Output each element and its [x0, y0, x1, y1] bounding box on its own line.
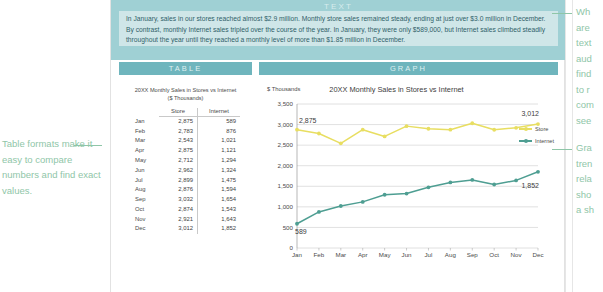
cell-store: 2,543 — [159, 136, 198, 146]
cell-internet: 1,294 — [198, 156, 241, 166]
x-tick-label: Jun — [402, 251, 413, 258]
y-tick-label: 3,500 — [278, 100, 294, 107]
table-row: Nov2,9211,643 — [131, 214, 240, 224]
data-point-store — [514, 126, 518, 130]
cell-month: Jul — [131, 175, 159, 185]
guide-line-2 — [572, 0, 573, 292]
table-row: Apr2,8751,121 — [131, 146, 240, 156]
y-tick-label: 2,000 — [278, 162, 294, 169]
text-paragraph: In January, sales in our stores reached … — [126, 14, 551, 46]
cell-internet: 1,643 — [198, 214, 241, 224]
series-line-store — [297, 123, 538, 143]
data-point-store — [383, 135, 387, 139]
cell-internet: 1,852 — [198, 224, 241, 234]
col-header-store: Store — [159, 108, 198, 116]
cell-month: Jan — [131, 116, 159, 126]
x-tick-label: Oct — [489, 251, 499, 258]
legend-item-internet: Internet — [519, 138, 554, 144]
y-tick-label: 500 — [283, 224, 294, 231]
table-body: Jan2,875589Feb2,783876Mar2,5431,021Apr2,… — [131, 116, 240, 234]
cell-internet: 1,324 — [198, 165, 241, 175]
cell-month: Dec — [131, 224, 159, 234]
cell-month: Jun — [131, 165, 159, 175]
data-point-store — [361, 128, 365, 132]
cell-internet: 1,475 — [198, 175, 241, 185]
x-tick-label: Jan — [292, 251, 303, 258]
data-point-store — [339, 141, 343, 145]
x-tick-label: May — [379, 251, 392, 258]
x-tick-label: Nov — [511, 251, 523, 258]
data-point-internet — [317, 210, 321, 214]
text-section-label: TEXT — [111, 2, 566, 11]
data-point-store — [295, 128, 299, 132]
cell-store: 2,921 — [159, 214, 198, 224]
cell-month: Oct — [131, 205, 159, 215]
cell-internet: 1,543 — [198, 205, 241, 215]
legend-swatch-store — [519, 128, 532, 130]
leader-line-top-right — [552, 13, 572, 14]
cell-store: 2,875 — [159, 116, 198, 126]
y-tick-label: 2,500 — [278, 141, 294, 148]
x-tick-label: Dec — [532, 251, 543, 258]
legend-swatch-internet — [519, 140, 532, 142]
table-title: 20XX Monthly Sales in Stores vs Internet… — [119, 86, 252, 102]
callout-internet-first: 589 — [295, 228, 307, 235]
x-tick-label: Jul — [424, 251, 432, 258]
text-section: TEXT In January, sales in our stores rea… — [111, 0, 566, 60]
data-point-internet — [448, 181, 452, 185]
cell-internet: 1,121 — [198, 146, 241, 156]
cell-store: 3,012 — [159, 224, 198, 234]
chart-plot-area: 05001,0001,5002,0002,5003,0003,500JanFeb… — [267, 98, 550, 268]
data-point-internet — [492, 183, 496, 187]
cell-month: Nov — [131, 214, 159, 224]
line-chart-svg: 05001,0001,5002,0002,5003,0003,500JanFeb… — [267, 98, 550, 268]
table-row: Jun2,9621,324 — [131, 165, 240, 175]
table-section-label: TABLE — [119, 62, 252, 75]
x-tick-label: Aug — [445, 251, 457, 258]
data-point-store — [427, 127, 431, 131]
col-header-internet: Internet — [198, 108, 241, 116]
x-tick-label: Mar — [335, 251, 346, 258]
data-point-store — [470, 121, 474, 125]
leader-line-left — [74, 145, 102, 146]
data-point-internet — [405, 192, 409, 196]
graph-section-label: GRAPH — [259, 62, 558, 75]
legend-item-store: Store — [519, 126, 554, 132]
y-tick-label: 1,500 — [278, 182, 294, 189]
cell-internet: 1,021 — [198, 136, 241, 146]
table-row: Oct2,8741,543 — [131, 205, 240, 215]
table-row: May2,7121,294 — [131, 156, 240, 166]
chart-title: 20XX Monthly Sales in Stores vs Internet — [289, 85, 504, 94]
data-point-internet — [427, 185, 431, 189]
chart-legend: Store Internet — [519, 126, 554, 150]
legend-label-store: Store — [535, 126, 548, 132]
data-point-store — [405, 124, 409, 128]
cell-store: 2,875 — [159, 146, 198, 156]
cell-month: Feb — [131, 126, 159, 136]
table-row: Jan2,875589 — [131, 116, 240, 126]
graph-card: $ Thousands 20XX Monthly Sales in Stores… — [259, 76, 558, 285]
text-card: In January, sales in our stores reached … — [119, 11, 558, 46]
cell-month: May — [131, 156, 159, 166]
cell-store: 2,783 — [159, 126, 198, 136]
table-card: 20XX Monthly Sales in Stores vs Internet… — [119, 76, 252, 285]
table-row: Mar2,5431,021 — [131, 136, 240, 146]
cell-store: 2,876 — [159, 185, 198, 195]
callout-store-last: 3,012 — [521, 110, 539, 117]
table-row: Jul2,8991,475 — [131, 175, 240, 185]
x-tick-label: Apr — [358, 251, 368, 258]
data-point-internet — [383, 193, 387, 197]
table-row: Feb2,783876 — [131, 126, 240, 136]
cell-store: 2,712 — [159, 156, 198, 166]
data-point-store — [448, 128, 452, 132]
table-row: Dec3,0121,852 — [131, 224, 240, 234]
callout-internet-last: 1,852 — [521, 182, 539, 189]
cell-internet: 1,654 — [198, 195, 241, 205]
cell-month: Sep — [131, 195, 159, 205]
table-header-row: Store Internet — [131, 108, 240, 116]
y-tick-label: 3,000 — [278, 121, 294, 128]
data-point-internet — [339, 204, 343, 208]
table-title-line2: ($ Thousands) — [168, 95, 204, 101]
cell-store: 2,899 — [159, 175, 198, 185]
x-tick-label: Sep — [467, 251, 479, 258]
